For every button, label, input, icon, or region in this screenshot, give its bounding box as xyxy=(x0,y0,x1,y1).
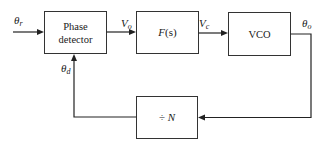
arrow-icon xyxy=(37,29,44,35)
vc-label: Vc xyxy=(199,17,210,31)
feedback-wire-left xyxy=(74,58,137,117)
theta-o-label: θo xyxy=(302,17,311,31)
phase-detector-label-line2: detector xyxy=(59,34,93,45)
arrow-icon xyxy=(221,30,228,36)
phase-detector-box xyxy=(45,12,107,54)
theta-r-label: θr xyxy=(14,14,23,28)
pll-block-diagram: θr Phase detector Vo F(s) Vc VCO θo ÷ N xyxy=(0,0,326,146)
theta-d-label: θd xyxy=(61,62,71,76)
divider-block: ÷ N xyxy=(137,97,198,139)
loop-filter-block: F(s) xyxy=(137,12,199,54)
loop-filter-label: F(s) xyxy=(157,26,177,39)
phase-detector-label-line1: Phase xyxy=(63,21,88,32)
pd-output-signal: Vo xyxy=(107,17,137,35)
vco-block: VCO xyxy=(229,13,291,56)
input-signal: θr xyxy=(13,14,44,35)
arrow-icon xyxy=(198,115,205,121)
divider-label: ÷ N xyxy=(159,111,176,123)
vco-label: VCO xyxy=(248,29,271,40)
feedback-signal: θd xyxy=(61,54,137,117)
arrow-icon xyxy=(71,54,77,61)
vo-label: Vo xyxy=(121,17,132,31)
phase-detector-block: Phase detector xyxy=(45,12,107,54)
filter-output-signal: Vc xyxy=(199,17,229,36)
